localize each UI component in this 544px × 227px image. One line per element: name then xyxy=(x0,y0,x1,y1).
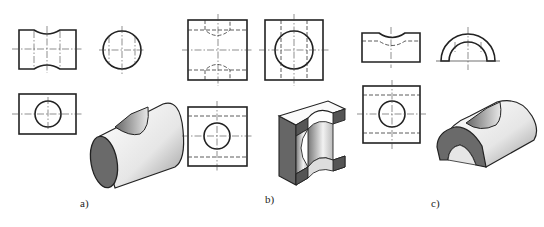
c-side-view xyxy=(436,27,500,70)
c-top-view xyxy=(357,80,426,149)
a-isometric-cylinder xyxy=(87,103,184,190)
b-front-view xyxy=(182,14,253,86)
a-front-view xyxy=(12,26,83,73)
b-top-view xyxy=(182,101,253,172)
panel-c xyxy=(357,27,537,167)
b-isometric-block xyxy=(279,101,345,185)
c-front-view xyxy=(362,27,420,68)
b-side-view xyxy=(259,14,329,86)
a-top-view xyxy=(12,94,83,134)
panel-b-label: b) xyxy=(265,193,274,205)
panel-a-label: a) xyxy=(80,197,89,209)
panel-c-label: c) xyxy=(431,197,440,209)
panel-a xyxy=(12,26,184,190)
panel-b xyxy=(182,14,345,185)
c-isometric-shell xyxy=(437,101,537,167)
a-side-view xyxy=(99,26,145,74)
